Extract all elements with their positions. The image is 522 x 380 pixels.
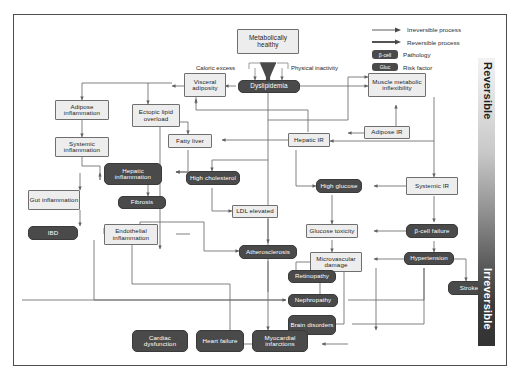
legend-label: Risk factor	[403, 64, 432, 71]
node-high-cholesterol[interactable]: High cholesterol	[186, 171, 240, 185]
legend-item-pathology: β-cell Pathology	[372, 49, 484, 60]
node-gut-inflammation[interactable]: Gut inflammation	[28, 190, 80, 210]
node-retinopathy[interactable]: Retinopathy	[288, 270, 336, 283]
node-hypertension[interactable]: Hypertension	[404, 252, 454, 265]
node-label: Ectopic lipid overload	[133, 109, 179, 122]
node-label: Hepatic inflammation	[105, 168, 161, 181]
node-label: β-cell failure	[415, 228, 450, 235]
node-label: Nephropathy	[295, 297, 332, 304]
node-high-glucose[interactable]: High glucose	[316, 179, 362, 193]
node-label: Fatty liver	[176, 138, 204, 145]
axis-label-irreversible: Irreversible	[479, 268, 494, 330]
node-label: Adipose inflammation	[56, 104, 108, 117]
edge-label-physical-inactivity: Physical inactivity	[291, 65, 338, 71]
legend-item-reversible: Reversible process	[372, 37, 484, 48]
legend-item-irreversible: Irreversible process	[372, 24, 484, 35]
node-metabolically-healthy[interactable]: Metabolically healthy	[237, 29, 299, 54]
legend-label: Reversible process	[407, 39, 460, 46]
node-label: Gut inflammation	[30, 197, 78, 204]
node-microvascular-damage[interactable]: Microvascular damage	[310, 252, 362, 272]
node-label: IBD	[48, 230, 59, 237]
node-hepatic-inflammation[interactable]: Hepatic inflammation	[104, 163, 162, 185]
node-label: LDL elevated	[236, 208, 273, 215]
node-label: Adipose IR	[371, 129, 402, 136]
node-label: Endothelial inflammation	[105, 228, 157, 241]
legend-label: Pathology	[403, 51, 431, 58]
gluc-badge-icon: Gluc	[372, 63, 398, 72]
thick-arrow-icon	[372, 38, 402, 46]
edge-label-caloric-excess: Caloric excess	[196, 65, 235, 71]
node-label: Microvascular damage	[311, 256, 361, 269]
node-hepatic-ir[interactable]: Hepatic IR	[288, 133, 330, 147]
node-adipose-inflammation[interactable]: Adipose inflammation	[55, 100, 109, 120]
node-fibrosis[interactable]: Fibrosis	[118, 196, 166, 209]
node-label: Fibrosis	[131, 199, 153, 206]
node-atherosclerosis[interactable]: Atherosclerosis	[239, 245, 297, 259]
node-label: High cholesterol	[190, 175, 236, 182]
node-label: Visceral adiposity	[185, 79, 225, 92]
axis-label-reversible: Reversible	[479, 62, 494, 120]
node-label: Glucose toxicity	[310, 228, 355, 235]
node-glucose-toxicity[interactable]: Glucose toxicity	[306, 224, 358, 238]
node-label: Muscle metabolic inflexibility	[369, 79, 425, 92]
node-label: Metabolically healthy	[238, 35, 298, 48]
node-heart-failure[interactable]: Heart failure	[196, 330, 244, 352]
node-label: Stroke	[460, 285, 478, 292]
node-systemic-ir[interactable]: Systemic IR	[406, 177, 458, 195]
node-cardiac-dysfunction[interactable]: Cardiac dysfunction	[132, 330, 188, 352]
node-myocardial-infarctions[interactable]: Myocardial infarctions	[252, 330, 308, 352]
legend: Irreversible process Reversible process …	[372, 24, 484, 74]
legend-label: Irreversible process	[407, 26, 461, 33]
node-label: Brain disorders	[290, 322, 333, 329]
node-label: Dyslipidemia	[250, 83, 287, 90]
node-ibd[interactable]: IBD	[28, 226, 78, 240]
node-label: Systemic inflammation	[56, 141, 108, 154]
node-dyslipidemia[interactable]: Dyslipidemia	[238, 80, 300, 93]
beta-cell-badge-icon: β-cell	[372, 50, 398, 59]
node-label: Hypertension	[410, 255, 448, 262]
node-systemic-inflammation[interactable]: Systemic inflammation	[55, 137, 109, 157]
node-ectopic-lipid-overload[interactable]: Ectopic lipid overload	[132, 104, 180, 127]
diagram-canvas: Metabolically healthy Caloric excess Phy…	[0, 0, 522, 380]
thin-arrow-icon	[372, 26, 402, 34]
node-label: Retinopathy	[295, 273, 329, 280]
node-beta-cell-failure[interactable]: β-cell failure	[406, 224, 458, 238]
node-label: Atherosclerosis	[246, 249, 290, 256]
node-label: Myocardial infarctions	[253, 335, 307, 348]
node-label: Hepatic IR	[294, 137, 324, 144]
node-visceral-adiposity[interactable]: Visceral adiposity	[184, 73, 226, 97]
node-ldl-elevated[interactable]: LDL elevated	[232, 205, 278, 218]
node-endothelial-inflammation[interactable]: Endothelial inflammation	[104, 224, 158, 245]
node-label: High glucose	[321, 183, 358, 190]
node-label: Systemic IR	[415, 183, 449, 190]
legend-item-risk-factor: Gluc Risk factor	[372, 62, 484, 73]
node-muscle-metabolic-inflexibility[interactable]: Muscle metabolic inflexibility	[368, 73, 426, 97]
node-label: Heart failure	[202, 338, 237, 345]
node-label: Cardiac dysfunction	[133, 335, 187, 348]
node-fatty-liver[interactable]: Fatty liver	[168, 134, 212, 148]
node-adipose-ir[interactable]: Adipose IR	[364, 126, 410, 139]
node-nephropathy[interactable]: Nephropathy	[288, 294, 338, 307]
